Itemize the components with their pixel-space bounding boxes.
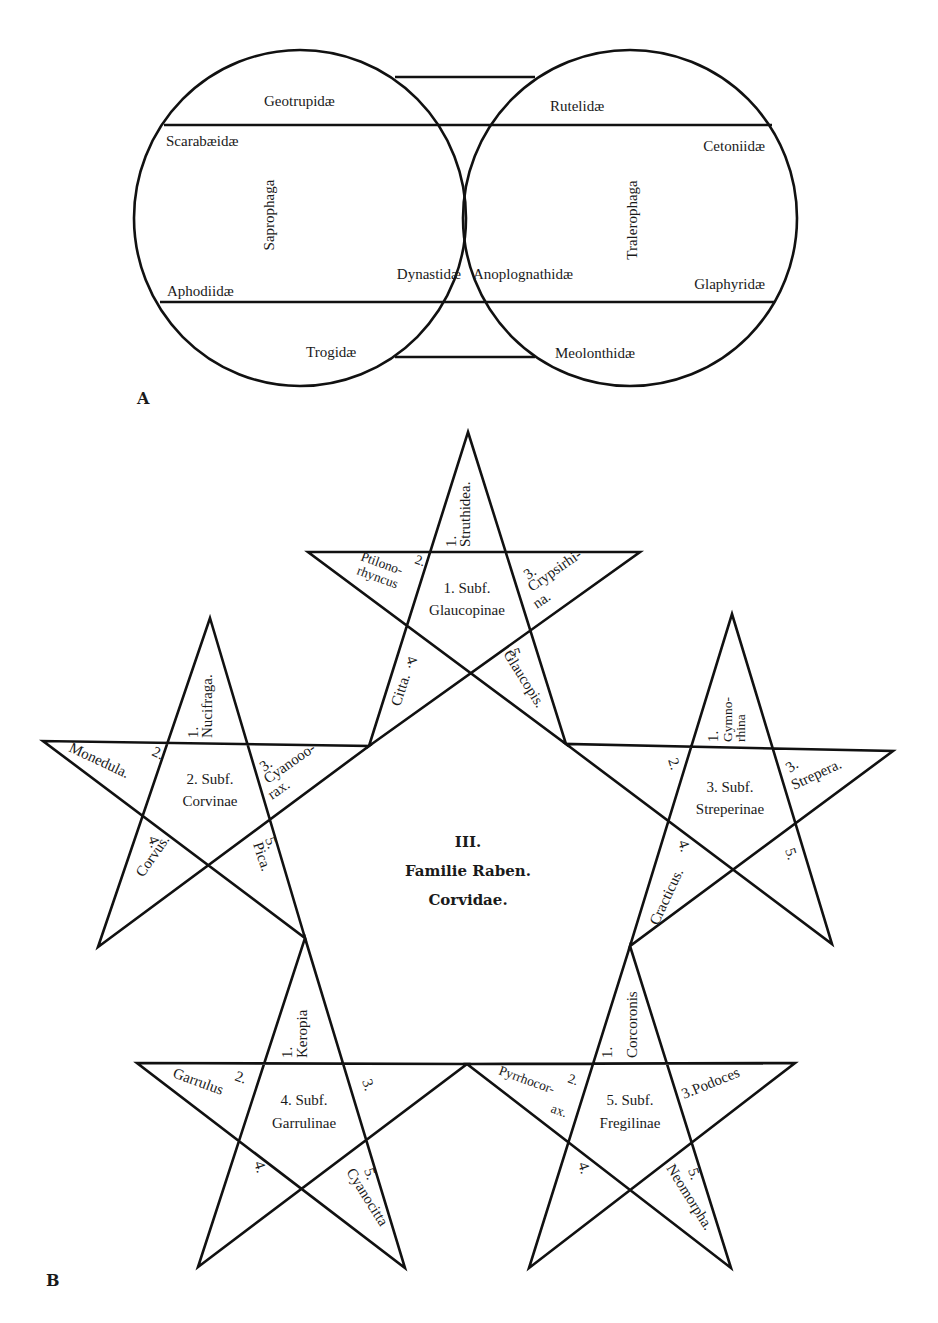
subfamily-number: 2. Subf. <box>186 771 233 787</box>
point-2-number: 2. <box>150 743 167 762</box>
family-aphodiidae: Aphodiidæ <box>167 283 234 299</box>
point-1-number: 1. <box>599 1047 615 1058</box>
point-5-number: 5. <box>782 846 801 862</box>
family-anoplognathidae: Anoplognathidæ <box>473 266 573 282</box>
star-2-labels: 2. Subf. Corvinae 1. Nucifraga. 2. Moned… <box>67 674 318 879</box>
point-4-number: 4. <box>575 1160 594 1176</box>
subfamily-number: 1. Subf. <box>443 580 490 596</box>
subfamily-number: 4. Subf. <box>280 1092 327 1108</box>
point-1-name: rhina <box>733 714 748 742</box>
point-1-name: Corcoronis <box>624 991 640 1058</box>
panel-a: Geotrupidæ Scarabæidæ Dynastidæ Aphodiid… <box>134 50 797 408</box>
subfamily-name: Fregilinae <box>600 1115 661 1131</box>
panel-b-label: B <box>46 1271 60 1290</box>
star-3-labels: 3. Subf. Streperinae 1. Gymno- rhina 2. … <box>646 697 844 928</box>
point-4-number: 4. <box>403 654 422 670</box>
star-5-labels: 5. Subf. Fregilinae 1. Corcoronis 2. Pyr… <box>497 991 742 1233</box>
point-3-number: 3. <box>783 756 801 776</box>
family-cetoniidae: Cetoniidæ <box>703 138 765 154</box>
family-glaphyridae: Glaphyridæ <box>694 276 765 292</box>
subfamily-name: Glaucopinae <box>429 602 505 618</box>
family-geotrupidae: Geotrupidæ <box>264 93 335 109</box>
family-trogidae: Trogidæ <box>306 344 356 360</box>
point-2-name: Pyrrhocor- <box>497 1063 557 1097</box>
point-1-name: Struthidea. <box>457 482 473 547</box>
subfamily-name: Streperinae <box>696 801 765 817</box>
panel-a-label: A <box>136 389 150 408</box>
family-number: III. <box>455 833 481 851</box>
panel-b: III. Familie Raben. Corvidae. 1. Subf. G… <box>43 432 893 1290</box>
star-4-labels: 4. Subf. Garrulinae 1. Keropia 2. Garrul… <box>171 1009 392 1229</box>
point-4-number: 4. <box>251 1159 270 1175</box>
point-2-name: ax. <box>549 1101 569 1121</box>
family-rutelidae: Rutelidæ <box>550 98 604 114</box>
family-name-german: Familie Raben. <box>405 862 531 880</box>
point-1-name: Keropia <box>294 1009 310 1058</box>
point-3-number: 3. <box>359 1077 378 1093</box>
point-1-number: 1. <box>705 731 721 742</box>
diagram-canvas: Geotrupidæ Scarabæidæ Dynastidæ Aphodiid… <box>0 0 938 1323</box>
family-name-latin: Corvidae. <box>428 891 507 909</box>
point-2-name: Garrulus <box>171 1065 226 1098</box>
subfamily-number: 5. Subf. <box>606 1092 653 1108</box>
subfamily-number: 3. Subf. <box>706 779 753 795</box>
point-3-name: 3.Podoces <box>679 1064 742 1102</box>
family-scarabaeidae: Scarabæidæ <box>166 133 239 149</box>
subfamily-name: Corvinae <box>183 793 238 809</box>
subfamily-name: Garrulinae <box>272 1115 336 1131</box>
point-2-number: 2. <box>233 1068 249 1087</box>
point-4-number: 4. <box>675 838 694 854</box>
point-1-number: 1. <box>279 1047 295 1058</box>
point-1-name: Nucifraga. <box>199 674 215 738</box>
group-saprophaga: Saprophaga <box>261 179 277 250</box>
family-meolonthidae: Meolonthidæ <box>555 345 635 361</box>
family-dynastidae: Dynastidæ <box>397 266 461 282</box>
point-2-name: Monedula. <box>67 739 132 781</box>
point-2-number: 2. <box>566 1071 581 1089</box>
point-3-name: Strepera. <box>789 756 844 793</box>
group-tralerophaga: Tralerophaga <box>624 180 640 260</box>
point-2-number: 2. <box>665 756 684 772</box>
star-1-labels: 1. Subf. Glaucopinae 1. Struthidea. 2. P… <box>355 482 584 711</box>
